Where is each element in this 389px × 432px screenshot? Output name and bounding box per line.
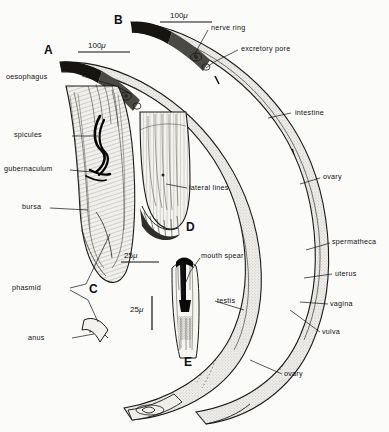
panel-letter-c: C <box>89 283 98 295</box>
scale-bar-b-value: 100 <box>170 11 183 20</box>
scale-bar-b-unit: μ <box>183 11 187 20</box>
label-anus: anus <box>28 334 45 341</box>
label-uterus: uterus <box>335 270 356 277</box>
scale-bar-b: 100μ <box>170 12 188 20</box>
label-intestine: intestine <box>295 109 324 116</box>
label-vagina: vagina <box>330 300 353 307</box>
label-vulva: vulva <box>322 328 340 335</box>
scale-bar-a: 100μ <box>88 42 106 50</box>
panel-letter-b: B <box>114 14 123 26</box>
scale-bar-e: 25μ <box>130 306 143 314</box>
scale-bar-c: 25μ <box>124 252 137 260</box>
label-oesophagus: oesophagus <box>6 73 48 80</box>
anus-marker <box>82 318 108 342</box>
label-bursa: bursa <box>22 203 41 210</box>
label-excretory-pore: excretory pore <box>241 45 290 52</box>
nematode-illustration <box>0 0 389 432</box>
label-gubernaculum: gubernaculum <box>4 165 53 172</box>
label-spermatheca: spermatheca <box>332 238 376 245</box>
panel-letter-d: D <box>186 221 195 233</box>
panel-letter-e: E <box>184 356 192 368</box>
panel-letter-a: A <box>44 44 53 56</box>
label-mouth-spear: mouth spear <box>201 252 244 259</box>
panel-D-female-tail <box>140 112 190 240</box>
label-spicules: spicules <box>14 131 42 138</box>
label-testis: testis <box>217 297 235 304</box>
label-ovary-lower: ovary <box>284 370 303 377</box>
label-lateral-lines: lateral lines <box>189 184 229 191</box>
label-ovary-upper: ovary <box>323 173 342 180</box>
panel-E-head <box>172 258 199 359</box>
scale-bar-a-value: 100 <box>88 41 101 50</box>
label-phasmid: phasmid <box>12 284 41 291</box>
scale-bar-c-unit: μ <box>133 251 137 260</box>
label-nerve-ring: nerve ring <box>211 24 245 31</box>
figure-plate: A B C D E 100μ 100μ 25μ 25μ oesophagus s… <box>0 0 389 432</box>
scale-bar-e-unit: μ <box>139 305 143 314</box>
scale-bar-a-unit: μ <box>101 41 105 50</box>
scale-bar-e-value: 25 <box>130 305 139 314</box>
scale-bar-c-value: 25 <box>124 251 133 260</box>
